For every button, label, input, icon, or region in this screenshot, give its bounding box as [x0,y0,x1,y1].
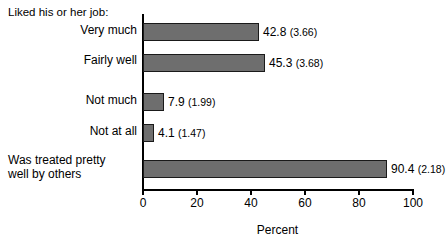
value-number: 45.3 [269,56,292,70]
x-axis-line [142,189,413,191]
bar-chart: Liked his or her job: Very much Fairly w… [0,0,447,247]
value-standard-error: (2.18) [418,163,445,175]
x-axis-title: Percent [142,223,413,237]
x-tick-100 [412,189,414,195]
x-tick-80 [358,189,360,195]
value-label-fairly-well: 45.3 (3.68) [269,54,323,72]
bar-fairly-well [143,54,265,72]
x-tick-label-80: 80 [339,196,379,210]
category-label-fairly-well: Fairly well [84,53,137,67]
x-tick-label-60: 60 [285,196,325,210]
x-tick-label-20: 20 [177,196,217,210]
group-heading: Liked his or her job: [8,5,108,19]
value-label-not-at-all: 4.1 (1.47) [158,124,205,142]
category-label-not-much: Not much [86,93,137,107]
value-number: 42.8 [263,25,286,39]
category-label-was-treated-pretty-well-by-others: Was treated pretty well by others [8,153,106,181]
x-tick-40 [250,189,252,195]
value-label-was-treated-pretty-well-by-others: 90.4 (2.18) [391,160,445,178]
plot-area: 42.8 (3.66) 45.3 (3.68) 7.9 (1.99) 4.1 (… [142,14,413,189]
value-standard-error: (3.66) [290,26,317,38]
x-tick-0 [142,189,144,195]
value-label-not-much: 7.9 (1.99) [168,93,215,111]
value-standard-error: (3.68) [296,57,323,69]
x-tick-label-100: 100 [393,196,433,210]
x-tick-60 [304,189,306,195]
value-standard-error: (1.47) [178,127,205,139]
value-number: 7.9 [168,95,185,109]
category-label-very-much: Very much [80,23,137,37]
bar-not-much [143,93,164,111]
value-label-very-much: 42.8 (3.66) [263,23,317,41]
x-tick-label-40: 40 [231,196,271,210]
bar-very-much [143,23,259,41]
value-number: 4.1 [158,126,175,140]
x-tick-20 [196,189,198,195]
x-tick-label-0: 0 [123,196,163,210]
category-label-not-at-all: Not at all [90,124,137,138]
value-standard-error: (1.99) [188,96,215,108]
bar-not-at-all [143,124,154,142]
value-number: 90.4 [391,162,414,176]
bar-was-treated-pretty-well-by-others [143,160,387,178]
